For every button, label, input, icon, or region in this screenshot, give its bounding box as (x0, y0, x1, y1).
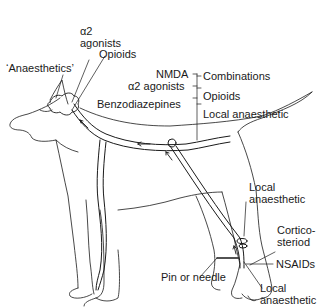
label-spinal-combinations: Combinations (203, 70, 270, 82)
hind-leg-nerve (170, 146, 247, 268)
label-alpha2-agonists-brain: α2 agonists (80, 25, 121, 49)
label-line: steriod (277, 236, 316, 248)
label-corticosteroid: Cortico- steriod (277, 224, 316, 248)
label-pin-or-needle: Pin or needle (161, 271, 226, 283)
label-spinal-benzodiazepines: Benzodiazepines (97, 98, 181, 110)
label-spinal-nmda: NMDA (156, 68, 188, 80)
label-line: Cortico- (277, 224, 316, 236)
label-opioids-brain: Opioids (99, 48, 136, 60)
label-anaesthetics: ‘Anaesthetics’ (6, 62, 74, 74)
dog-pain-pathway-illustration (0, 0, 323, 308)
label-line: Local (260, 282, 316, 294)
label-local-anaesthetic-nerve: Local anaesthetic (249, 181, 305, 205)
label-nsaids: NSAIDs (276, 258, 315, 270)
label-local-anaesthetic-paw: Local anaesthetic (260, 282, 316, 306)
label-line: anaesthetic (260, 294, 316, 306)
label-line: α2 (80, 25, 121, 37)
label-spinal-local-anaesthetic: Local anaesthetic (203, 108, 289, 120)
label-line: anaesthetic (249, 193, 305, 205)
label-spinal-alpha2: α2 agonists (128, 80, 185, 92)
label-spinal-opioids: Opioids (203, 90, 240, 102)
label-line: Local (249, 181, 305, 193)
